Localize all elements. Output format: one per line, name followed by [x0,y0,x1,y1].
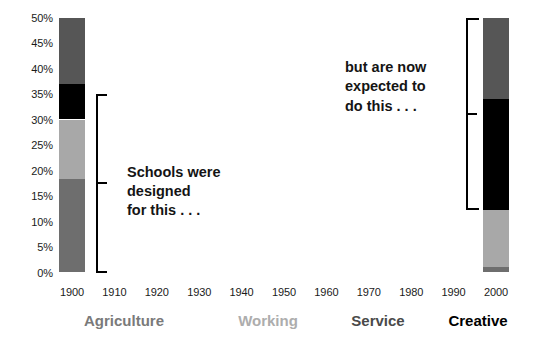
y-axis-tick: 30% [31,114,53,126]
legend-item-agriculture: Agriculture [84,312,164,329]
annotation-but-are-now-expected: but are now expected to do this . . . [345,58,426,115]
y-axis-tick: 0% [37,267,53,279]
bracket-arm-top [96,94,107,96]
y-axis-tick: 50% [31,12,53,24]
bar-1900 [59,18,85,273]
x-axis-tick: 1900 [60,286,84,298]
bar-segment-working [59,120,85,180]
legend-item-working: Working [238,312,298,329]
y-axis-tick: 20% [31,165,53,177]
y-axis-tick: 15% [31,190,53,202]
y-axis-tick: 10% [31,216,53,228]
x-axis-tick: 1940 [230,286,254,298]
x-axis-tick: 1970 [357,286,381,298]
x-axis-tick: 1930 [187,286,211,298]
x-axis-tick: 1950 [272,286,296,298]
x-axis-tick: 2000 [484,286,508,298]
legend-item-creative: Creative [448,312,507,329]
bar-segment-agriculture [59,179,85,272]
chart-legend: Agriculture Working Service Creative [0,312,537,338]
x-axis-tick: 1910 [102,286,126,298]
bar-segment-creative [59,84,85,120]
y-axis-tick: 35% [31,88,53,100]
x-axis-tick: 1960 [314,286,338,298]
annotation-schools-were-designed: Schools were designed for this . . . [127,163,220,220]
y-axis-tick: 45% [31,37,53,49]
x-axis-tick: 1920 [145,286,169,298]
bar-segment-working [483,210,509,268]
x-axis: 1900 1910 1920 1930 1940 1950 1960 1970 … [0,286,537,304]
bar-segment-creative [483,99,509,210]
bracket-arm-top [468,18,479,20]
bracket-left [96,94,109,273]
bracket-arm-bottom [468,208,479,210]
legend-item-service: Service [351,312,404,329]
y-axis: 50% 45% 40% 35% 30% 25% 20% 15% 10% 5% 0… [0,0,60,290]
bar-segment-service [59,18,85,84]
bar-2000 [483,18,509,273]
bar-segment-service [483,18,509,99]
bracket-pointer [468,113,477,115]
bracket-right [466,18,479,210]
x-axis-tick: 1990 [442,286,466,298]
bracket-arm-bottom [96,271,107,273]
stacked-bar-chart: 50% 45% 40% 35% 30% 25% 20% 15% 10% 5% 0… [0,0,537,347]
y-axis-tick: 5% [37,241,53,253]
y-axis-tick: 25% [31,139,53,151]
bracket-pointer [98,182,107,184]
bar-segment-agriculture [483,267,509,272]
x-axis-tick: 1980 [399,286,423,298]
y-axis-tick: 40% [31,63,53,75]
